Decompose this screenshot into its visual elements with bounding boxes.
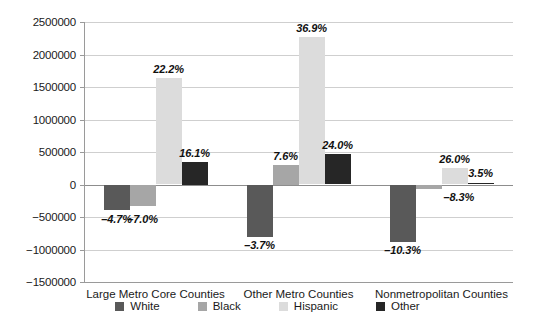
legend-swatch-icon (279, 302, 288, 311)
bar-hispanic-3[interactable] (442, 168, 468, 185)
bar-black-3[interactable] (416, 185, 442, 190)
x-axis-category-label: Nonmetropolitan Counties (370, 288, 513, 300)
bar-value-label: 16.1% (179, 147, 210, 159)
bar-white-3[interactable] (390, 185, 416, 242)
legend-label: Other (391, 300, 420, 312)
x-axis-category-label: Other Metro Counties (227, 288, 370, 300)
legend-swatch-icon (198, 302, 207, 311)
bar-black-1[interactable] (130, 185, 156, 206)
legend-swatch-icon (376, 302, 385, 311)
y-axis-tick-label: 2000000 (0, 49, 76, 61)
bar-value-label: –7.0% (127, 213, 158, 225)
bar-black-2[interactable] (273, 165, 299, 185)
x-axis-line (84, 282, 513, 283)
legend-item-white[interactable]: White (115, 300, 159, 312)
bar-group: –4.7%–7.0%22.2%16.1% (84, 22, 227, 282)
plot-area: –4.7%–7.0%22.2%16.1%–3.7%7.6%36.9%24.0%–… (84, 22, 513, 282)
legend-item-black[interactable]: Black (198, 300, 241, 312)
legend-item-other[interactable]: Other (376, 300, 420, 312)
y-axis-tick-label: −1500000 (0, 276, 76, 288)
y-axis-tick-label: 2500000 (0, 16, 76, 28)
bar-group: –10.3%–8.3%26.0%3.5% (370, 22, 513, 282)
bar-value-label: 7.6% (273, 150, 298, 162)
bar-value-label: 36.9% (296, 22, 327, 34)
bar-white-1[interactable] (104, 185, 130, 210)
bar-value-label: 24.0% (322, 139, 353, 151)
bar-other-3[interactable] (468, 183, 494, 184)
bar-value-label: 26.0% (439, 153, 470, 165)
legend-label: Black (213, 300, 241, 312)
y-axis-tick-label: 0 (0, 179, 76, 191)
y-axis-tick-label: 1000000 (0, 114, 76, 126)
bar-chart: 25000002000000150000010000005000000−5000… (0, 0, 535, 325)
bar-value-label: 3.5% (468, 167, 493, 179)
legend-label: White (130, 300, 159, 312)
bar-other-2[interactable] (325, 154, 351, 185)
bar-value-label: 22.2% (153, 63, 184, 75)
legend-swatch-icon (115, 302, 124, 311)
bar-value-label: –10.3% (384, 244, 421, 256)
y-axis-tick-label: −1000000 (0, 244, 76, 256)
y-axis-tick-label: −500000 (0, 211, 76, 223)
bar-hispanic-2[interactable] (299, 37, 325, 185)
y-axis-tick-label: 1500000 (0, 81, 76, 93)
legend-item-hispanic[interactable]: Hispanic (279, 300, 338, 312)
bar-white-2[interactable] (247, 185, 273, 237)
legend-label: Hispanic (294, 300, 338, 312)
bar-value-label: –8.3% (444, 191, 475, 203)
bar-other-1[interactable] (182, 162, 208, 185)
chart-legend: WhiteBlackHispanicOther (0, 300, 535, 312)
bar-group: –3.7%7.6%36.9%24.0% (227, 22, 370, 282)
y-axis-tick-label: 500000 (0, 146, 76, 158)
bar-value-label: –3.7% (244, 239, 275, 251)
bar-hispanic-1[interactable] (156, 78, 182, 185)
x-axis-category-label: Large Metro Core Counties (84, 288, 227, 300)
